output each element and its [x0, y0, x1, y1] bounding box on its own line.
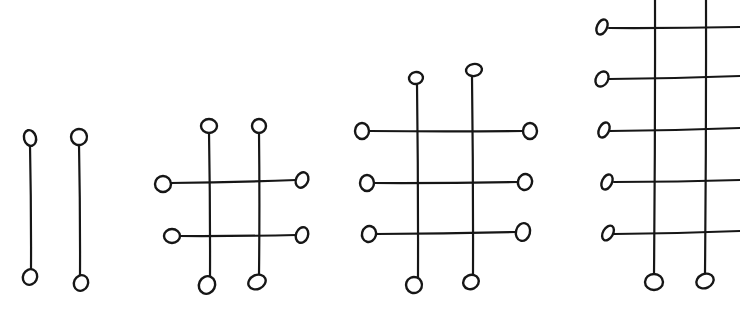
top-loop-icon — [22, 129, 38, 148]
horizontal-strand — [170, 180, 296, 183]
strand-end-loops — [355, 63, 537, 296]
top-loop-icon — [252, 119, 266, 133]
horizontal-strand — [376, 232, 516, 234]
horizontal-strand — [614, 231, 740, 234]
left-loop-icon — [164, 229, 180, 243]
figure-2 — [155, 119, 311, 297]
bottom-loop-icon — [246, 272, 268, 292]
top-loop-icon — [408, 71, 424, 85]
right-loop-icon — [516, 172, 534, 191]
top-loop-icon — [465, 63, 483, 78]
strands — [30, 144, 80, 276]
bottom-loop-icon — [196, 273, 218, 296]
vertical-strand — [472, 77, 473, 275]
top-loop-icon — [69, 127, 90, 148]
bottom-loop-icon — [20, 267, 39, 287]
figure-1 — [20, 127, 90, 293]
bottom-loop-icon — [645, 274, 663, 290]
vertical-strand — [79, 144, 80, 276]
figure-3 — [355, 63, 537, 296]
strands — [609, 0, 740, 274]
vertical-strand — [417, 84, 418, 278]
right-loop-icon — [293, 170, 311, 190]
right-loop-icon — [523, 123, 537, 139]
vertical-strand — [209, 132, 210, 278]
left-loop-icon — [594, 18, 610, 37]
top-loop-icon — [201, 119, 217, 133]
strand-end-loops — [155, 119, 311, 297]
left-loop-icon — [596, 121, 612, 140]
bottom-loop-icon — [461, 272, 481, 291]
left-loop-icon — [360, 224, 378, 243]
left-loop-icon — [593, 69, 611, 89]
vertical-strand — [30, 145, 31, 270]
strands — [370, 77, 523, 278]
left-loop-icon — [600, 224, 617, 243]
horizontal-strand — [609, 27, 740, 28]
left-loop-icon — [355, 123, 369, 139]
vertical-strand — [654, 0, 655, 274]
horizontal-strand — [614, 180, 740, 182]
right-loop-icon — [294, 225, 311, 244]
strands — [170, 132, 296, 278]
horizontal-strand — [374, 182, 518, 183]
left-loop-icon — [360, 175, 374, 191]
left-loop-icon — [155, 176, 171, 192]
bottom-loop-icon — [404, 275, 425, 296]
bottom-loop-icon — [71, 273, 90, 293]
bottom-loop-icon — [694, 271, 716, 291]
string-figures-canvas — [0, 0, 740, 330]
vertical-strand — [705, 0, 706, 273]
figure-4 — [593, 0, 740, 291]
left-loop-icon — [599, 173, 615, 192]
horizontal-strand — [180, 235, 296, 236]
right-loop-icon — [514, 221, 532, 242]
horizontal-strand — [610, 128, 740, 131]
horizontal-strand — [609, 76, 740, 79]
